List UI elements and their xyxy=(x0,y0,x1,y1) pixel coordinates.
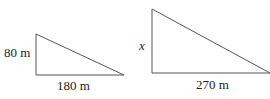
large-height-label: x xyxy=(139,38,145,54)
small-base-label: 180 m xyxy=(57,78,90,94)
small-height-label: 80 m xyxy=(4,45,30,61)
large-base-label: 270 m xyxy=(196,77,229,93)
large-triangle xyxy=(152,9,270,73)
small-triangle xyxy=(36,34,124,75)
similar-triangles-figure xyxy=(0,0,270,99)
